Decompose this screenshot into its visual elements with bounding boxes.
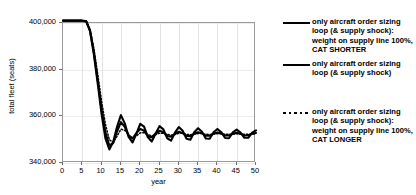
y-tick-mark bbox=[59, 69, 62, 70]
x-axis-title: year bbox=[62, 178, 255, 186]
x-tick-mark bbox=[139, 162, 140, 165]
legend-label: only aircraft order sizing loop (& suppl… bbox=[312, 17, 416, 55]
x-tick-mark bbox=[62, 162, 63, 165]
y-tick-label: 340,000 bbox=[0, 158, 56, 166]
solid-line-icon bbox=[283, 18, 310, 28]
x-tick-label: 15 bbox=[111, 167, 129, 175]
x-tick-label: 30 bbox=[169, 167, 187, 175]
series-layer bbox=[63, 23, 256, 163]
x-tick-label: 35 bbox=[188, 167, 206, 175]
x-tick-label: 40 bbox=[207, 167, 225, 175]
legend-label: only aircraft order sizing loop (& suppl… bbox=[312, 107, 416, 145]
x-tick-label: 5 bbox=[72, 167, 90, 175]
x-tick-label: 50 bbox=[246, 167, 264, 175]
x-tick-mark bbox=[178, 162, 179, 165]
chart-figure: 340,000360,000380,000400,000 05101520253… bbox=[0, 0, 416, 195]
y-axis-title: total fleet (seats) bbox=[8, 38, 16, 134]
y-tick-label: 400,000 bbox=[0, 18, 56, 26]
x-tick-mark bbox=[120, 162, 121, 165]
x-tick-mark bbox=[81, 162, 82, 165]
y-tick-mark bbox=[59, 115, 62, 116]
x-tick-mark bbox=[159, 162, 160, 165]
x-tick-mark bbox=[236, 162, 237, 165]
y-tick-mark bbox=[59, 22, 62, 23]
x-tick-mark bbox=[255, 162, 256, 165]
x-tick-mark bbox=[197, 162, 198, 165]
x-tick-label: 20 bbox=[130, 167, 148, 175]
x-tick-label: 0 bbox=[53, 167, 71, 175]
x-tick-label: 25 bbox=[150, 167, 168, 175]
x-tick-label: 45 bbox=[227, 167, 245, 175]
plot-area bbox=[62, 22, 255, 162]
x-tick-mark bbox=[216, 162, 217, 165]
x-tick-label: 10 bbox=[92, 167, 110, 175]
x-tick-mark bbox=[101, 162, 102, 165]
series-line-3 bbox=[63, 21, 256, 143]
solid-line-icon bbox=[283, 60, 310, 70]
chart-legend: only aircraft order sizing loop (& suppl… bbox=[283, 0, 416, 195]
dotted-line-icon bbox=[283, 108, 310, 118]
legend-label: only aircraft order sizing loop (& suppl… bbox=[312, 59, 416, 78]
